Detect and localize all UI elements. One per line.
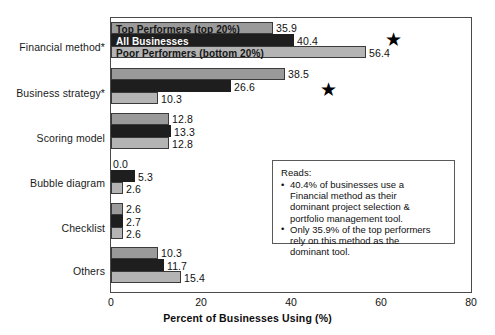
- bar-value-financial-method-top: 35.9: [276, 22, 297, 34]
- bar-checklist-poor-performers[interactable]: [111, 227, 123, 239]
- bar-others-all-businesses[interactable]: [111, 259, 164, 271]
- bar-value-checklist-poor: 2.6: [126, 228, 141, 240]
- bar-value-business-strategy-all: 26.6: [234, 81, 255, 93]
- reads-bullet-list: 40.4% of businesses use a Financial meth…: [281, 179, 447, 257]
- category-label-checklist: Checklist: [0, 222, 105, 234]
- bar-value-scoring-model-all: 13.3: [174, 126, 195, 138]
- reads-bullet-2-line-3: dominant tool.: [290, 246, 350, 257]
- reads-bullet-2-line-2: rely on this method as the: [290, 235, 399, 246]
- bar-value-scoring-model-top: 12.8: [172, 113, 193, 125]
- bar-checklist-top-performers[interactable]: [111, 203, 123, 215]
- bar-value-bubble-diagram-poor: 2.6: [126, 183, 141, 195]
- star-icon-financial-method: ★: [385, 30, 402, 49]
- bar-value-checklist-top: 2.6: [126, 203, 141, 215]
- bar-value-business-strategy-poor: 10.3: [161, 93, 182, 105]
- reads-bullet-2-line-1: Only 35.9% of the top performers: [290, 224, 431, 235]
- xtick-label-20: 20: [181, 296, 221, 308]
- legend-item-all-businesses[interactable]: All Businesses: [116, 36, 189, 47]
- bar-value-scoring-model-poor: 12.8: [172, 138, 193, 150]
- bar-value-others-poor: 15.4: [184, 272, 205, 284]
- category-label-financial-method: Financial method*: [0, 41, 105, 53]
- bar-value-financial-method-all: 40.4: [297, 35, 318, 47]
- reads-annotation-box: Reads: 40.4% of businesses use a Financi…: [272, 160, 455, 244]
- bar-chart-figure: Financial method* Business strategy* Sco…: [0, 0, 495, 335]
- bar-scoring-model-all-businesses[interactable]: [111, 125, 171, 137]
- xtick-label-60: 60: [361, 296, 401, 308]
- bar-business-strategy-all-businesses[interactable]: [111, 80, 231, 92]
- reads-bullet-1: 40.4% of businesses use a Financial meth…: [281, 179, 447, 224]
- bar-checklist-all-businesses[interactable]: [111, 215, 123, 227]
- bar-value-bubble-diagram-all: 5.3: [138, 171, 153, 183]
- bar-scoring-model-poor-performers[interactable]: [111, 137, 169, 149]
- category-label-business-strategy: Business strategy*: [0, 87, 105, 99]
- bar-others-poor-performers[interactable]: [111, 271, 181, 283]
- bar-business-strategy-poor-performers[interactable]: [111, 92, 158, 104]
- reads-bullet-1-line-3: dominant project selection &: [290, 201, 410, 212]
- bar-bubble-diagram-poor-performers[interactable]: [111, 182, 123, 194]
- legend-item-top-performers[interactable]: Top Performers (top 20%): [116, 24, 240, 35]
- category-label-bubble-diagram: Bubble diagram: [0, 177, 105, 189]
- xtick-label-40: 40: [271, 296, 311, 308]
- x-axis-title: Percent of Businesses Using (%): [0, 312, 495, 324]
- bar-bubble-diagram-all-businesses[interactable]: [111, 170, 135, 182]
- reads-box-title: Reads:: [281, 167, 447, 178]
- star-icon-business-strategy: ★: [320, 80, 337, 99]
- reads-bullet-1-line-1: 40.4% of businesses use a: [290, 179, 404, 190]
- category-label-scoring-model: Scoring model: [0, 132, 105, 144]
- bar-value-business-strategy-top: 38.5: [288, 68, 309, 80]
- bar-others-top-performers[interactable]: [111, 247, 158, 259]
- xtick-label-0: 0: [91, 296, 131, 308]
- bar-scoring-model-top-performers[interactable]: [111, 113, 169, 125]
- bar-value-checklist-all: 2.7: [126, 216, 141, 228]
- bar-value-others-top: 10.3: [161, 247, 182, 259]
- reads-bullet-1-line-4: portfolio management tool.: [290, 213, 403, 224]
- bar-value-others-all: 11.7: [167, 260, 187, 272]
- legend-item-poor-performers[interactable]: Poor Performers (bottom 20%): [116, 48, 264, 59]
- bar-business-strategy-top-performers[interactable]: [111, 68, 285, 80]
- xtick-label-80: 80: [451, 296, 491, 308]
- bar-value-bubble-diagram-top: 0.0: [113, 158, 128, 170]
- reads-bullet-2: Only 35.9% of the top performers rely on…: [281, 224, 447, 258]
- category-label-others: Others: [0, 265, 105, 277]
- reads-bullet-1-line-2: Financial method as their: [290, 190, 397, 201]
